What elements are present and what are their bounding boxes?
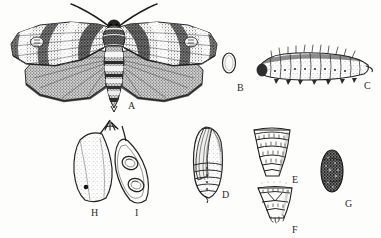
figure-g-cocoon (321, 150, 343, 192)
figure-label-d: D (222, 190, 230, 200)
figure-label-e: E (292, 175, 299, 185)
plate-artwork (0, 0, 381, 238)
figure-d-pupa (194, 127, 225, 203)
figure-f-cremaster-detail (258, 181, 292, 223)
illustration-plate: A B C D E F G H I (0, 0, 381, 238)
figure-i-pod-opened (115, 126, 149, 203)
figure-h-pod-intact (74, 120, 118, 202)
figure-label-f: F (292, 225, 298, 235)
figure-label-h: H (91, 208, 99, 218)
figure-label-g: G (345, 199, 353, 209)
figure-label-c: C (364, 81, 371, 91)
figure-e-pupal-segments (254, 128, 290, 176)
figure-label-b: B (237, 83, 244, 93)
figure-a-adult-moth (9, 4, 218, 112)
figure-c-larva (257, 45, 372, 85)
figure-label-a: A (128, 101, 136, 111)
figure-label-i: I (135, 208, 139, 218)
figure-b-egg (223, 53, 236, 73)
